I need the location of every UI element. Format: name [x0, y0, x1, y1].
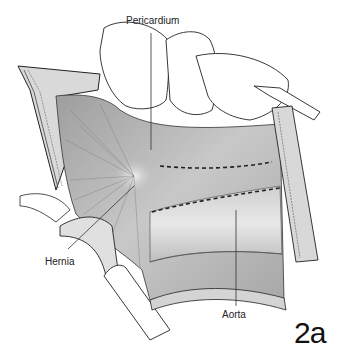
aorta-label: Aorta — [222, 309, 246, 320]
surgeon-hands — [100, 22, 288, 120]
surgical-illustration — [0, 0, 346, 364]
pericardium-label: Pericardium — [126, 15, 179, 26]
hernia-label: Hernia — [45, 256, 74, 267]
figure-number: 2a — [294, 316, 325, 350]
